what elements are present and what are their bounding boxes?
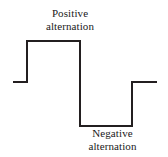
square-wave-trace: [13, 41, 157, 126]
negative-alternation-label-line1: Negative: [57, 127, 168, 140]
negative-alternation-label-line2: alternation: [57, 140, 168, 153]
negative-alternation-label: Negative alternation: [57, 127, 168, 152]
positive-alternation-label: Positive alternation: [0, 7, 140, 32]
positive-alternation-label-line2: alternation: [0, 20, 140, 33]
waveform-figure: Positive alternation Negative alternatio…: [0, 0, 168, 157]
positive-alternation-label-line1: Positive: [0, 7, 140, 20]
